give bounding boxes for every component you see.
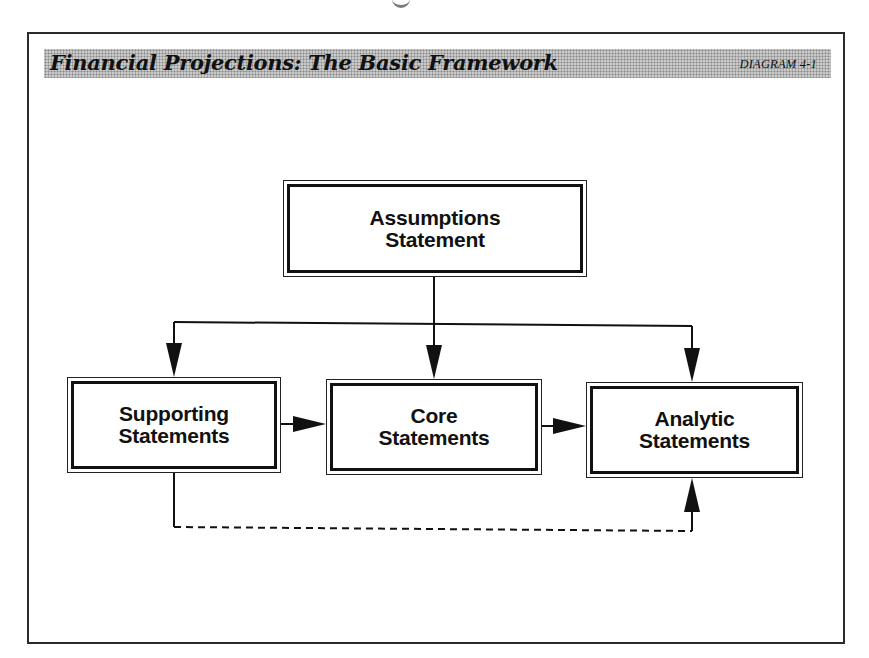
node-label: Core Statements [378, 405, 489, 449]
node-core-statements: Core Statements [326, 379, 542, 475]
node-analytic-statements: Analytic Statements [586, 382, 803, 478]
node-label: Assumptions Statement [370, 207, 501, 251]
arrowhead-up-analytic [684, 478, 700, 512]
arrowhead-right-analytic [553, 418, 586, 434]
node-supporting-statements: Supporting Statements [67, 377, 281, 473]
connectors [0, 0, 869, 658]
arrowhead-down-analytic [684, 348, 700, 382]
node-label: Supporting Statements [118, 403, 229, 447]
node-assumptions-statement: Assumptions Statement [283, 180, 587, 277]
arrowhead-right-core [293, 416, 326, 432]
node-inner-border: Supporting Statements [71, 381, 277, 469]
edge-feedback-dashed [174, 527, 692, 531]
arrowhead-down-core [426, 345, 442, 379]
arrowhead-down-supporting [166, 343, 182, 377]
node-label: Analytic Statements [639, 408, 750, 452]
node-inner-border: Assumptions Statement [287, 184, 583, 273]
node-inner-border: Core Statements [330, 383, 538, 471]
node-inner-border: Analytic Statements [590, 386, 799, 474]
